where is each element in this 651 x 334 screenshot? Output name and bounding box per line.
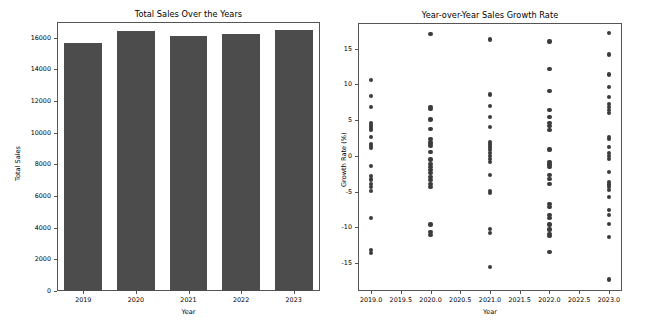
scatter-point — [428, 32, 432, 36]
scatter-x-tickmark — [579, 291, 580, 294]
bar-2020 — [117, 31, 155, 291]
bar-x-tickmark — [241, 291, 242, 294]
bar-y-tickmark — [54, 196, 57, 197]
scatter-x-tickmark — [520, 291, 521, 294]
scatter-point — [607, 222, 611, 226]
scatter-point — [547, 222, 551, 226]
bar-x-tickmark — [189, 291, 190, 294]
scatter-point — [488, 125, 492, 129]
bar-2021 — [170, 36, 208, 291]
scatter-point — [547, 216, 551, 220]
scatter-point — [607, 277, 611, 281]
scatter-x-tick-label: 2023.0 — [592, 296, 626, 304]
bar-2022 — [222, 34, 260, 291]
scatter-point — [607, 195, 611, 199]
scatter-y-tick-label: -10 — [322, 223, 352, 231]
scatter-y-tickmark — [355, 49, 358, 50]
bar-x-tickmark — [294, 291, 295, 294]
scatter-point — [547, 147, 551, 151]
scatter-x-axis-label: Year — [358, 308, 622, 316]
scatter-point — [428, 222, 432, 226]
scatter-y-tick-label: -15 — [322, 259, 352, 267]
bar-2019 — [64, 43, 102, 291]
bar-y-tick-label: 16000 — [11, 34, 51, 42]
bar-y-tickmark — [54, 291, 57, 292]
scatter-point — [607, 157, 611, 161]
scatter-y-tickmark — [355, 120, 358, 121]
scatter-point — [428, 144, 432, 148]
bar-y-tickmark — [54, 228, 57, 229]
scatter-point — [547, 234, 551, 238]
scatter-point — [369, 127, 373, 131]
scatter-x-tickmark — [431, 291, 432, 294]
scatter-point — [369, 177, 373, 181]
scatter-point — [488, 92, 492, 96]
bar-y-tickmark — [54, 69, 57, 70]
scatter-point — [428, 233, 432, 237]
bar-x-tick-label: 2022 — [221, 296, 261, 304]
bar-y-tick-label: 4000 — [11, 224, 51, 232]
scatter-point — [547, 89, 551, 93]
bar-y-tick-label: 10000 — [11, 129, 51, 137]
bar-y-tickmark — [54, 259, 57, 260]
scatter-point — [607, 31, 611, 35]
bar-x-axis-label: Year — [57, 308, 320, 316]
scatter-x-tickmark — [401, 291, 402, 294]
figure-canvas: Total Sales Over the Years 0200040006000… — [0, 0, 651, 334]
bar-y-tickmark — [54, 38, 57, 39]
scatter-y-tickmark — [355, 192, 358, 193]
scatter-point — [547, 128, 551, 132]
scatter-y-tick-label: 15 — [322, 45, 352, 53]
bar-y-tickmark — [54, 101, 57, 102]
scatter-y-tickmark — [355, 84, 358, 85]
bar-y-tick-label: 2000 — [11, 255, 51, 263]
scatter-y-tickmark — [355, 156, 358, 157]
scatter-x-tickmark — [609, 291, 610, 294]
scatter-y-tick-label: 10 — [322, 80, 352, 88]
scatter-point — [607, 95, 611, 99]
bar-y-tick-label: 0 — [11, 287, 51, 295]
scatter-point — [428, 117, 432, 121]
bar-chart-title: Total Sales Over the Years — [57, 9, 320, 19]
scatter-y-tickmark — [355, 227, 358, 228]
scatter-point — [607, 52, 611, 56]
scatter-y-tickmark — [355, 263, 358, 264]
scatter-x-tickmark — [490, 291, 491, 294]
scatter-point — [547, 67, 551, 71]
bar-x-tick-label: 2023 — [274, 296, 314, 304]
scatter-chart-title: Year-over-Year Sales Growth Rate — [358, 10, 622, 20]
scatter-point — [488, 265, 492, 269]
scatter-point — [428, 157, 432, 161]
scatter-point — [428, 150, 432, 154]
bar-2023 — [275, 30, 313, 291]
scatter-point — [547, 177, 551, 181]
bar-x-tickmark — [136, 291, 137, 294]
bar-y-tick-label: 6000 — [11, 192, 51, 200]
scatter-point — [547, 115, 551, 119]
bar-y-tickmark — [54, 133, 57, 134]
bar-chart-panel: Total Sales Over the Years 0200040006000… — [0, 0, 330, 334]
scatter-x-tickmark — [549, 291, 550, 294]
bar-x-tickmark — [83, 291, 84, 294]
scatter-point — [547, 227, 551, 231]
scatter-point — [428, 107, 432, 111]
scatter-y-axis-label: Growth Rate (%) — [340, 132, 348, 187]
bar-y-tickmark — [54, 164, 57, 165]
scatter-point — [607, 137, 611, 141]
bar-y-tick-label: 12000 — [11, 97, 51, 105]
bar-x-tick-label: 2019 — [63, 296, 103, 304]
scatter-point — [547, 205, 551, 209]
scatter-point — [488, 104, 492, 108]
scatter-point — [547, 182, 551, 186]
scatter-x-tickmark — [460, 291, 461, 294]
scatter-point — [488, 37, 492, 41]
scatter-y-tick-label: -5 — [322, 188, 352, 196]
scatter-point — [428, 127, 432, 131]
scatter-point — [547, 250, 551, 254]
scatter-point — [547, 39, 551, 43]
bar-x-tick-label: 2020 — [116, 296, 156, 304]
bar-y-axis-label: Total Sales — [14, 145, 22, 180]
scatter-point — [607, 72, 611, 76]
scatter-x-tickmark — [371, 291, 372, 294]
scatter-point — [547, 108, 551, 112]
